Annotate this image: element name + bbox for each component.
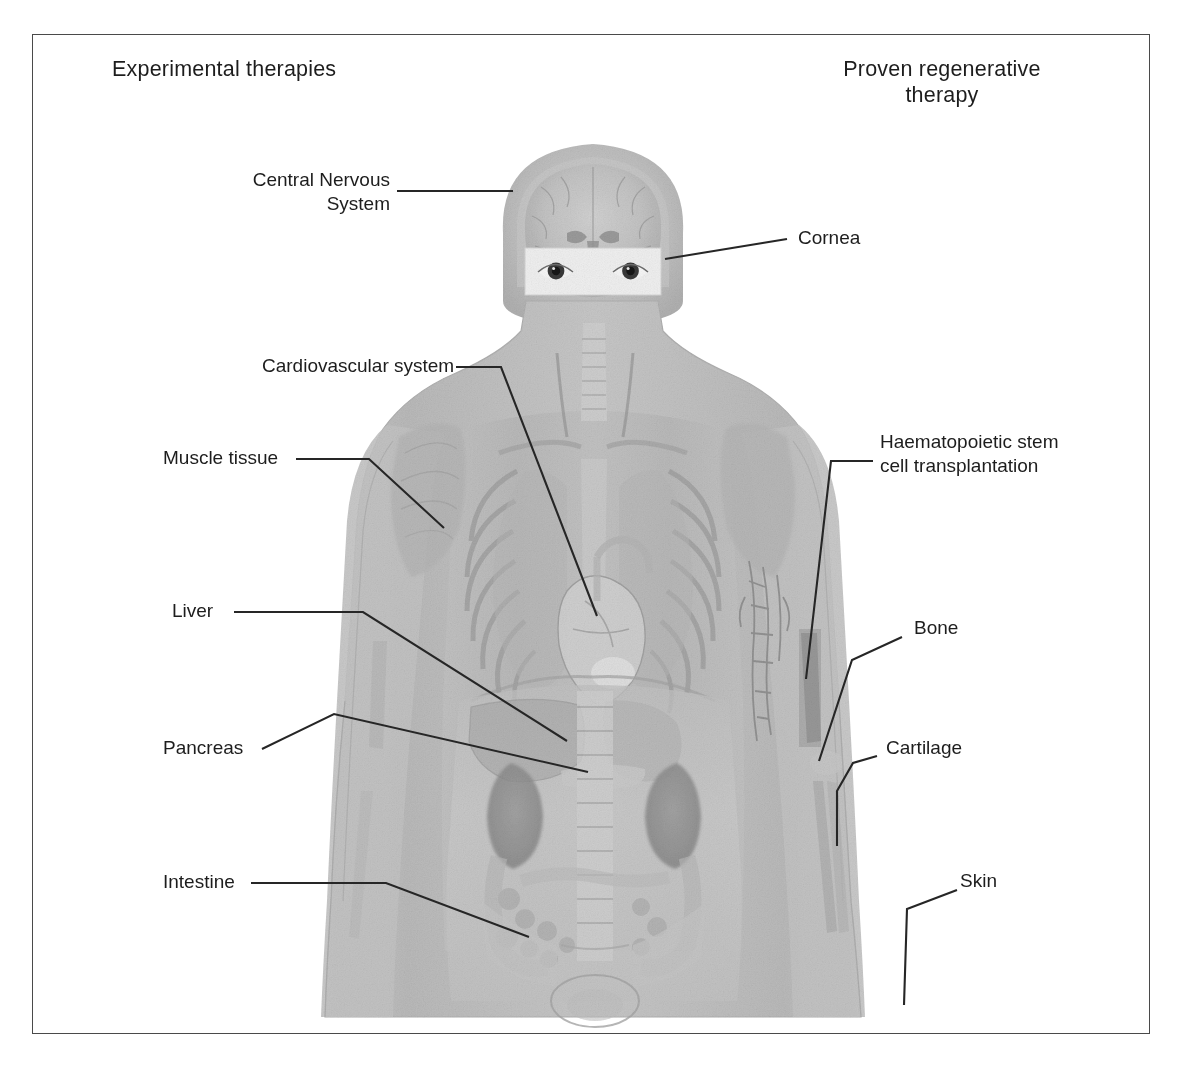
label-central-nervous-system: Central Nervous System bbox=[110, 168, 390, 216]
label-haematopoietic-stem-cell-transplantation: Haematopoietic stem cell transplantation bbox=[880, 430, 1058, 478]
label-muscle-tissue: Muscle tissue bbox=[163, 446, 278, 470]
leader-cardiovascular-system bbox=[456, 367, 597, 616]
label-cartilage: Cartilage bbox=[886, 736, 962, 760]
leader-pancreas bbox=[262, 714, 588, 772]
heading-proven-regenerative-therapy: Proven regenerative therapy bbox=[817, 56, 1067, 108]
leader-skin bbox=[904, 890, 957, 1005]
leader-muscle-tissue bbox=[296, 459, 444, 528]
leader-liver bbox=[234, 612, 567, 741]
label-pancreas: Pancreas bbox=[163, 736, 243, 760]
label-intestine: Intestine bbox=[163, 870, 235, 894]
leader-intestine bbox=[251, 883, 529, 937]
label-skin: Skin bbox=[960, 869, 997, 893]
label-cornea: Cornea bbox=[798, 226, 860, 250]
label-bone: Bone bbox=[914, 616, 958, 640]
heading-experimental-therapies: Experimental therapies bbox=[112, 56, 336, 82]
label-cardiovascular-system: Cardiovascular system bbox=[262, 354, 454, 378]
leader-cartilage bbox=[837, 756, 877, 846]
leader-haematopoietic bbox=[806, 461, 873, 679]
leader-cornea bbox=[665, 239, 787, 259]
label-liver: Liver bbox=[172, 599, 213, 623]
figure-container: Experimental therapies Proven regenerati… bbox=[0, 0, 1185, 1065]
